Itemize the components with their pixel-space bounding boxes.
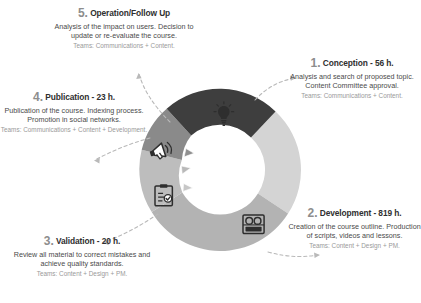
segment-development-arc[interactable] [152, 193, 288, 251]
step-title-validation: 3. Validation - 20 h. [6, 236, 158, 247]
step-name-validation: Validation [56, 236, 95, 246]
step-title-operation: 5. Operation/Follow Up [52, 8, 196, 19]
step-description-conception: Analysis and search of proposed topic. C… [283, 72, 421, 91]
step-label-publication[interactable]: 4. Publication - 23 h. Publication of th… [0, 92, 148, 135]
step-teams-operation: Teams: Communications + Content. [52, 42, 196, 50]
step-hours-conception: - 56 h. [370, 58, 394, 68]
step-number-development: 2. [307, 206, 317, 220]
step-title-development: 2. Development - 819 h. [288, 208, 421, 219]
step-hours-validation: - 20 h. [97, 236, 121, 246]
step-description-publication: Publication of the course. Indexing proc… [0, 106, 148, 125]
step-label-validation[interactable]: 3. Validation - 20 h. Review all materia… [6, 236, 158, 279]
step-name-conception: Conception [323, 58, 368, 68]
flow-arrow-1 [183, 184, 193, 192]
step-number-operation: 5. [78, 6, 88, 20]
step-number-validation: 3. [44, 234, 54, 248]
step-label-conception[interactable]: 1. Conception - 56 h. Analysis and searc… [283, 58, 421, 101]
step-description-validation: Review all material to correct mistakes … [6, 250, 158, 269]
donut-flow-arrows [181, 149, 194, 192]
step-number-conception: 1. [310, 56, 320, 70]
step-name-publication: Publication [45, 92, 89, 102]
arrowhead-development [314, 253, 320, 258]
step-title-conception: 1. Conception - 56 h. [283, 58, 421, 69]
step-description-development: Creation of the course outline. Producti… [288, 222, 421, 241]
step-number-publication: 4. [33, 90, 43, 104]
step-name-development: Development [320, 208, 372, 218]
step-teams-publication: Teams: Communications + Content + Develo… [0, 126, 148, 134]
flow-arrow-2 [181, 166, 190, 174]
flow-arrow-3 [184, 149, 194, 157]
step-hours-publication: - 23 h. [92, 92, 116, 102]
process-donut-chart [139, 88, 303, 252]
step-name-operation: Operation/Follow Up [90, 8, 170, 18]
step-title-publication: 4. Publication - 23 h. [0, 92, 148, 103]
donut-segments [139, 89, 301, 251]
step-label-development[interactable]: 2. Development - 819 h. Creation of the … [288, 208, 421, 251]
step-hours-development: - 819 h. [373, 208, 401, 218]
step-description-operation: Analysis of the impact on users. Decisio… [52, 22, 196, 41]
arrowhead-operation [136, 73, 141, 79]
diagram-canvas: 5. Operation/Follow Up Analysis of the i… [0, 0, 421, 303]
step-teams-conception: Teams: Communications + Content. [283, 92, 421, 100]
step-label-operation[interactable]: 5. Operation/Follow Up Analysis of the i… [52, 8, 196, 51]
step-teams-development: Teams: Content + Design + PM. [288, 242, 421, 250]
connector-to-development [268, 252, 318, 257]
step-teams-validation: Teams: Content + Design + PM. [6, 270, 158, 278]
arrowhead-publication [94, 158, 100, 164]
